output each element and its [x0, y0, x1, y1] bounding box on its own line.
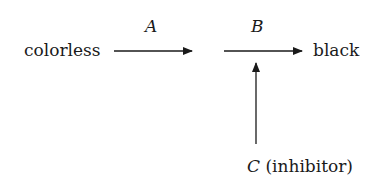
step-b-label: B — [251, 18, 264, 35]
inhibitor-text: (inhibitor) — [265, 156, 353, 176]
step-a-label: A — [145, 18, 157, 35]
start-label: colorless — [24, 42, 101, 59]
inhibitor-label: C (inhibitor) — [247, 158, 353, 175]
end-label: black — [313, 42, 359, 59]
inhibitor-symbol: C — [247, 156, 260, 176]
